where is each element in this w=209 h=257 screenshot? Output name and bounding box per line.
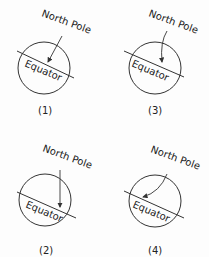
earth-circle bbox=[19, 174, 71, 226]
caption: (1) bbox=[38, 105, 52, 116]
caption: (3) bbox=[148, 105, 162, 116]
pole-arrow bbox=[162, 31, 167, 62]
caption: (2) bbox=[39, 245, 53, 256]
north-pole-label: North Pole bbox=[40, 8, 93, 36]
north-pole-label: North Pole bbox=[41, 143, 94, 171]
north-pole-label: North Pole bbox=[149, 144, 202, 172]
diagram-3: North Pole Equator (3) bbox=[124, 8, 200, 116]
equator-label: Equator bbox=[23, 58, 64, 84]
pole-arrow bbox=[48, 36, 62, 62]
diagram-4: North Pole Equator (4) bbox=[124, 144, 202, 256]
equator-label: Equator bbox=[24, 199, 65, 225]
diagram-canvas: North Pole Equator (1) North Pole Equato… bbox=[0, 0, 209, 257]
pole-arrow bbox=[143, 174, 167, 197]
equator-label: Equator bbox=[130, 58, 171, 84]
diagram-1: North Pole Equator (1) bbox=[17, 8, 93, 116]
diagram-2: North Pole Equator (2) bbox=[17, 143, 94, 256]
caption: (4) bbox=[148, 245, 162, 256]
north-pole-label: North Pole bbox=[147, 8, 200, 36]
